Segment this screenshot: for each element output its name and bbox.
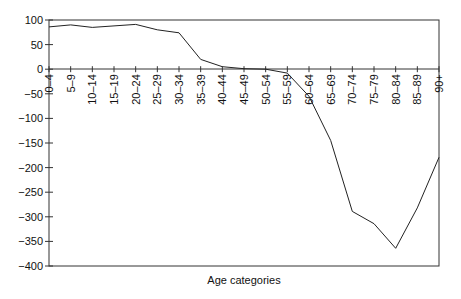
x-tick-label: 60–64 bbox=[303, 74, 315, 105]
x-tick-label: 50–54 bbox=[260, 74, 272, 105]
x-tick-label: 45–49 bbox=[238, 74, 250, 105]
x-tick-label: 20–24 bbox=[130, 74, 142, 105]
y-tick-label: 0 bbox=[37, 63, 43, 75]
x-tick-label: 40–44 bbox=[216, 74, 228, 105]
x-tick-label: 25–29 bbox=[151, 74, 163, 105]
x-tick-label: 0–4 bbox=[43, 74, 55, 92]
y-tick-label: −350 bbox=[18, 235, 43, 247]
y-tick-label: −50 bbox=[24, 88, 43, 100]
x-axis-title: Age categories bbox=[207, 274, 281, 286]
x-tick-label: 35–39 bbox=[195, 74, 207, 105]
y-tick-label: −150 bbox=[18, 137, 43, 149]
x-tick-label: 55–59 bbox=[281, 74, 293, 105]
x-tick-label: 15–19 bbox=[108, 74, 120, 105]
y-tick-label: −300 bbox=[18, 211, 43, 223]
x-tick-label: 80–84 bbox=[390, 74, 402, 105]
x-tick-label: 5–9 bbox=[65, 74, 77, 92]
line-chart: 100500−50−100−150−200−250−300−350−400 0–… bbox=[0, 0, 461, 299]
y-tick-label: 50 bbox=[31, 39, 43, 51]
x-tick-label: 10–14 bbox=[86, 74, 98, 105]
y-axis: 100500−50−100−150−200−250−300−350−400 bbox=[18, 14, 53, 272]
y-tick-label: −400 bbox=[18, 260, 43, 272]
x-tick-label: 90+ bbox=[433, 74, 445, 93]
x-tick-label: 30–34 bbox=[173, 74, 185, 105]
x-tick-label: 65–69 bbox=[325, 74, 337, 105]
plot-frame bbox=[49, 20, 439, 266]
y-tick-label: −100 bbox=[18, 112, 43, 124]
y-tick-label: −250 bbox=[18, 186, 43, 198]
x-tick-label: 70–74 bbox=[346, 74, 358, 105]
x-axis: 0–45–910–1415–1920–2425–2930–3435–3940–4… bbox=[43, 66, 445, 105]
data-series-line bbox=[49, 24, 439, 248]
x-tick-label: 85–89 bbox=[411, 74, 423, 105]
y-tick-label: −200 bbox=[18, 162, 43, 174]
x-tick-label: 75–79 bbox=[368, 74, 380, 105]
y-tick-label: 100 bbox=[25, 14, 43, 26]
